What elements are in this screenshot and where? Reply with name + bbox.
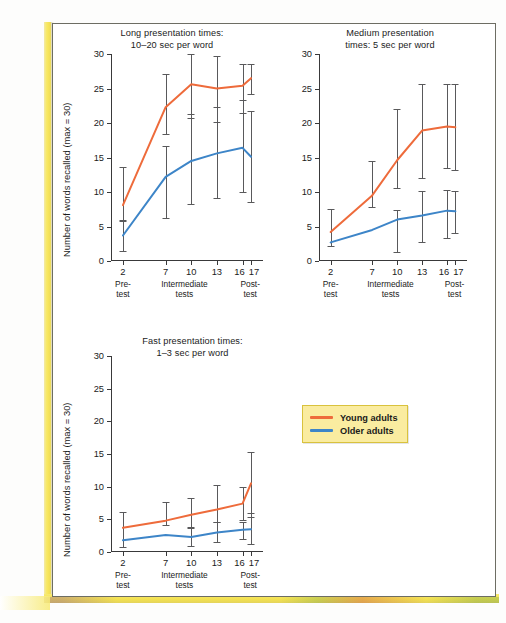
y-tick-label: 30 <box>94 351 104 361</box>
panel-long-presentation: Long presentation times: 10–20 sec per w… <box>53 24 281 314</box>
x-group-label: Intermediate tests <box>161 570 208 591</box>
legend-swatch-older <box>310 429 333 431</box>
y-tick <box>315 261 319 262</box>
x-group-label: Pre- test <box>115 279 131 300</box>
y-tick-label: 5 <box>99 222 104 232</box>
x-tick-label: 16 <box>234 266 244 277</box>
panel-title-long: Long presentation times: 10–20 sec per w… <box>67 28 277 51</box>
y-tick-label: 5 <box>99 514 104 524</box>
legend: Young adults Older adults <box>302 405 408 443</box>
y-axis-title-fast: Number of words recalled (max = 30) <box>61 403 72 558</box>
x-group-label: Pre- test <box>323 279 339 300</box>
series-line-young <box>331 126 456 232</box>
y-tick-label: 5 <box>307 222 312 232</box>
legend-item-older: Older adults <box>310 424 398 437</box>
x-tick <box>447 261 448 265</box>
x-tick <box>422 261 423 265</box>
x-tick-label: 7 <box>163 266 168 277</box>
x-group-label: Intermediate tests <box>367 279 414 300</box>
x-tick-label: 10 <box>392 266 402 277</box>
x-tick <box>331 261 332 265</box>
x-tick-label: 17 <box>249 266 259 277</box>
legend-label-young: Young adults <box>340 413 398 423</box>
plot-area-medium: 0510152025302710131617Pre- testIntermedi… <box>319 54 467 261</box>
y-tick-label: 20 <box>94 416 104 426</box>
x-tick <box>123 261 124 265</box>
x-tick <box>397 261 398 265</box>
x-tick <box>123 552 124 556</box>
x-tick <box>217 261 218 265</box>
y-tick-label: 0 <box>307 256 312 266</box>
figure-page: Long presentation times: 10–20 sec per w… <box>0 0 506 623</box>
x-tick-label: 13 <box>212 557 222 568</box>
x-tick <box>243 261 244 265</box>
y-tick-label: 20 <box>302 118 312 128</box>
x-tick-label: 2 <box>120 266 125 277</box>
y-tick-label: 30 <box>302 49 312 59</box>
x-tick <box>372 261 373 265</box>
y-tick-label: 0 <box>99 256 104 266</box>
panel-fast-presentation: Fast presentation times: 1–3 sec per wor… <box>53 324 281 598</box>
x-tick <box>166 552 167 556</box>
x-tick <box>166 261 167 265</box>
x-tick <box>243 552 244 556</box>
y-tick-label: 10 <box>94 482 104 492</box>
series-line-young <box>123 78 251 205</box>
x-tick-label: 7 <box>163 557 168 568</box>
legend-swatch-young <box>310 416 333 418</box>
panel-medium-presentation: Medium presentation times: 5 sec per wor… <box>281 24 497 314</box>
x-tick-label: 7 <box>370 266 375 277</box>
series-line-young <box>123 483 251 527</box>
x-tick-label: 17 <box>453 266 463 277</box>
x-tick-label: 16 <box>439 266 449 277</box>
x-group-label: Pre- test <box>115 570 131 591</box>
y-tick-label: 15 <box>302 153 312 163</box>
y-tick-label: 25 <box>94 84 104 94</box>
legend-item-young: Young adults <box>310 411 398 424</box>
y-tick-label: 20 <box>94 118 104 128</box>
x-tick-label: 2 <box>120 557 125 568</box>
x-tick <box>455 261 456 265</box>
y-tick-label: 10 <box>94 187 104 197</box>
x-tick-label: 16 <box>234 557 244 568</box>
x-tick-label: 13 <box>212 266 222 277</box>
plot-area-fast: 0510152025302710131617Pre- testIntermedi… <box>111 356 263 552</box>
series-layer <box>111 54 263 261</box>
y-tick-label: 15 <box>94 153 104 163</box>
x-tick <box>191 261 192 265</box>
y-axis-title-long: Number of words recalled (max = 30) <box>61 103 72 258</box>
plot-area-long: 0510152025302710131617Pre- testIntermedi… <box>111 54 263 261</box>
y-tick-label: 25 <box>302 84 312 94</box>
x-group-label: Post- test <box>240 570 260 591</box>
series-layer <box>319 54 467 261</box>
x-tick <box>251 552 252 556</box>
x-tick-label: 13 <box>417 266 427 277</box>
page-edge-bottom-fade <box>0 596 50 610</box>
y-tick-label: 15 <box>94 449 104 459</box>
series-layer <box>111 356 263 552</box>
y-tick-label: 10 <box>302 187 312 197</box>
x-tick <box>251 261 252 265</box>
x-tick-label: 2 <box>328 266 333 277</box>
series-line-older <box>123 529 251 540</box>
x-tick-label: 10 <box>186 557 196 568</box>
y-tick <box>107 552 111 553</box>
x-tick <box>191 552 192 556</box>
x-group-label: Intermediate tests <box>161 279 208 300</box>
page-edge-left <box>44 22 51 600</box>
x-group-label: Post- test <box>240 279 260 300</box>
legend-label-older: Older adults <box>340 426 394 436</box>
x-group-label: Post- test <box>445 279 465 300</box>
y-tick-label: 25 <box>94 384 104 394</box>
y-tick-label: 0 <box>99 547 104 557</box>
x-tick-label: 10 <box>186 266 196 277</box>
panel-title-medium: Medium presentation times: 5 sec per wor… <box>295 28 485 51</box>
figure-frame: Long presentation times: 10–20 sec per w… <box>52 23 496 597</box>
y-tick <box>107 261 111 262</box>
x-tick-label: 17 <box>249 557 259 568</box>
y-tick-label: 30 <box>94 49 104 59</box>
x-tick <box>217 552 218 556</box>
